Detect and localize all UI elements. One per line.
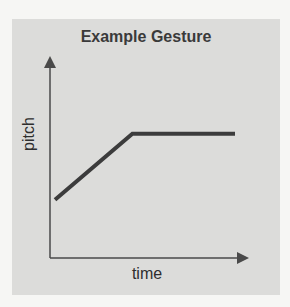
plot-area	[12, 19, 280, 295]
chart-panel: Example Gesture pitch time	[12, 19, 280, 295]
x-axis-label: time	[102, 265, 192, 283]
pitch-line	[55, 134, 235, 200]
y-axis-label: pitch	[20, 117, 38, 151]
